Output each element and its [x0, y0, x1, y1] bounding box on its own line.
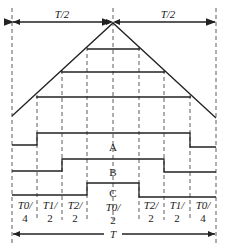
- interval-2-den: 2: [47, 212, 53, 224]
- triangle-carrier: [12, 23, 216, 118]
- interval-1-den: 4: [22, 212, 28, 224]
- interval-7-den: 4: [200, 212, 206, 224]
- interval-6-den: 2: [174, 212, 180, 224]
- interval-6-num: T1/: [170, 199, 186, 211]
- waveform-c-label: C: [109, 187, 116, 199]
- half-period-label-left: T/2: [55, 8, 70, 20]
- interval-1-num: T0/: [18, 199, 34, 211]
- waveform-a-label: A: [109, 141, 117, 153]
- interval-4-den: 2: [110, 214, 116, 226]
- waveform-b-label: B: [109, 166, 116, 178]
- interval-2-num: T1/: [43, 199, 59, 211]
- interval-3-num: T2/: [68, 199, 84, 211]
- interval-7-num: T0/: [196, 199, 212, 211]
- interval-5-num: T2/: [144, 199, 160, 211]
- interval-5-den: 2: [148, 212, 154, 224]
- interval-labels: T0/ 4 T1/ 2 T2/ 2 T0/ 2 T2/ 2 T1/ 2 T0/ …: [18, 199, 212, 226]
- interval-4-num: T0/: [106, 201, 122, 213]
- interval-3-den: 2: [72, 212, 78, 224]
- svpwm-timing-diagram: T/2 T/2 A B C T0/ 4 T1/ 2 T2/ 2 T0/ 2 T2…: [0, 0, 225, 250]
- half-period-label-right: T/2: [161, 8, 176, 20]
- period-label: T: [110, 228, 117, 240]
